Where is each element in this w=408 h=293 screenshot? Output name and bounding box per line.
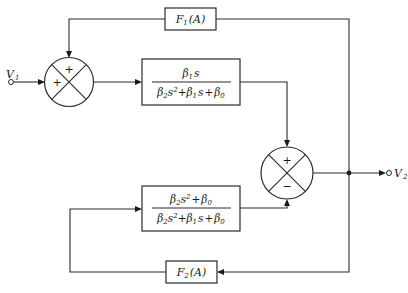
block1-input-arrow-icon — [135, 79, 142, 85]
block1-to-sum2-wire — [240, 82, 287, 141]
svg-text:F2(A): F2(A) — [176, 266, 207, 280]
f2-input-arrow-icon — [217, 269, 224, 275]
block-diagram: + + + − F1(A) β1s β2s2+β1s+β0 β2s2+β0 — [0, 0, 408, 293]
sum2-sign-bottom: − — [282, 180, 291, 193]
f1-block: F1(A) — [165, 8, 216, 30]
output-terminal — [387, 171, 392, 176]
f2-block: F2(A) — [166, 261, 217, 283]
sum2-top-arrow-icon — [284, 140, 290, 147]
block2-input-arrow-icon — [135, 206, 142, 212]
block2-to-sum2-wire — [240, 205, 287, 208]
sum2-sign-top: + — [282, 154, 291, 167]
input-label: V1 — [6, 68, 19, 82]
bandpass-block: β1s β2s2+β1s+β0 — [142, 59, 240, 105]
svg-text:F1(A): F1(A) — [175, 13, 206, 27]
sum2-bottom-arrow-icon — [284, 199, 290, 206]
notch-block: β2s2+β0 β2s2+β1s+β0 — [142, 186, 240, 231]
output-label: V2 — [394, 167, 408, 181]
notch-numerator: β2s2+β0 — [169, 193, 212, 207]
summing-junction-left: + + — [45, 58, 94, 107]
sum1-sign-left: + — [52, 76, 61, 89]
summing-junction-right: + − — [261, 147, 313, 199]
output-arrow-icon — [379, 170, 386, 176]
sum1-sign-top: + — [64, 63, 73, 76]
f1-to-sum1-wire — [69, 19, 165, 52]
